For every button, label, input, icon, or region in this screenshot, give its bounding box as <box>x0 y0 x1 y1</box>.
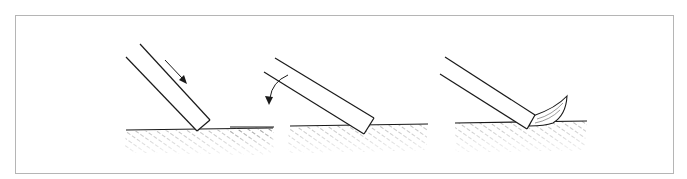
illustration <box>0 0 687 179</box>
tool <box>440 57 535 129</box>
tool <box>126 44 210 131</box>
tool <box>264 58 374 134</box>
panel-2 <box>230 58 428 153</box>
panel-3 <box>440 57 587 152</box>
